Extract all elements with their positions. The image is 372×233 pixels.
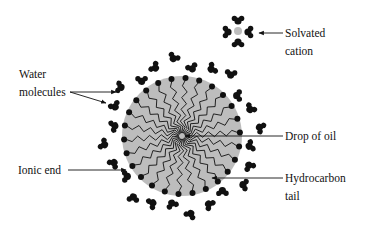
ionic-end-dot bbox=[236, 143, 242, 149]
solvated-cation bbox=[223, 16, 254, 48]
ionic-end-dot bbox=[190, 190, 196, 196]
ionic-end-dot bbox=[176, 191, 182, 197]
water-molecule-icon bbox=[224, 69, 238, 80]
water-molecule-icon bbox=[107, 99, 122, 113]
water-molecule-icon bbox=[135, 76, 148, 85]
ionic-end-dot bbox=[232, 157, 238, 163]
label-hydrocarbon-1: Hydrocarbon bbox=[285, 172, 346, 185]
arrow-water-2 bbox=[70, 92, 106, 103]
label-drop-of-oil: Drop of oil bbox=[285, 130, 336, 143]
ionic-end-dot bbox=[121, 137, 127, 143]
water-molecule-icon bbox=[202, 197, 217, 212]
water-molecule-icon bbox=[165, 198, 180, 211]
ionic-end-dot bbox=[133, 97, 139, 103]
ionic-end-dot bbox=[122, 123, 128, 129]
water-molecule-icon bbox=[233, 89, 242, 102]
ionic-end-dot bbox=[196, 78, 202, 84]
water-molecule-icon bbox=[183, 207, 198, 221]
ionic-end-dot bbox=[162, 188, 168, 194]
water-molecule-icon bbox=[108, 119, 121, 134]
water-molecule-icon bbox=[216, 187, 229, 196]
water-molecule-icon bbox=[184, 62, 199, 75]
label-ionic-end: Ionic end bbox=[18, 164, 61, 176]
water-molecule-icon bbox=[147, 60, 162, 75]
ionic-end-dot bbox=[220, 92, 226, 98]
label-hydrocarbon-2: tail bbox=[285, 190, 300, 202]
water-molecule-icon bbox=[166, 51, 181, 65]
water-molecule-icon bbox=[115, 80, 126, 94]
ionic-end-dot bbox=[129, 163, 135, 169]
ionic-end-dot bbox=[155, 80, 161, 86]
water-molecule-icon bbox=[243, 101, 258, 116]
water-molecule-icon bbox=[106, 156, 121, 171]
ionic-end-dot bbox=[229, 103, 235, 109]
ionic-end-dot bbox=[234, 116, 240, 122]
label-solvated-cation-1: Solvated bbox=[285, 27, 325, 39]
label-solvated-cation-2: cation bbox=[285, 45, 313, 57]
ionic-end-dot bbox=[138, 174, 144, 180]
water-molecule-icon bbox=[253, 120, 267, 135]
cation-icon bbox=[234, 27, 242, 35]
label-water-1: Water bbox=[19, 68, 46, 80]
ionic-end-dot bbox=[225, 169, 231, 175]
water-molecule-icon bbox=[242, 159, 257, 173]
water-molecule-icon bbox=[126, 192, 140, 203]
water-molecule-icon bbox=[238, 178, 249, 192]
ionic-end-dot bbox=[237, 130, 243, 136]
water-molecule-icon bbox=[244, 138, 257, 153]
micelle-diagram: Solvated cation Water molecules Drop of … bbox=[0, 0, 372, 233]
water-molecule-icon bbox=[97, 137, 111, 152]
ionic-end-dot bbox=[143, 87, 149, 93]
ionic-end-dot bbox=[126, 109, 132, 115]
ionic-end-dot bbox=[215, 179, 221, 185]
ionic-end-dot bbox=[149, 183, 155, 189]
label-water-2: molecules bbox=[19, 86, 66, 98]
water-molecule-icon bbox=[122, 170, 131, 183]
ionic-end-dot bbox=[124, 150, 130, 156]
ionic-end-dot bbox=[209, 83, 215, 89]
ionic-end-dot bbox=[203, 186, 209, 192]
water-molecule-icon bbox=[205, 61, 219, 76]
water-molecule-icon bbox=[145, 196, 159, 211]
ionic-end-dot bbox=[183, 75, 189, 81]
ionic-end-dot bbox=[169, 76, 175, 82]
